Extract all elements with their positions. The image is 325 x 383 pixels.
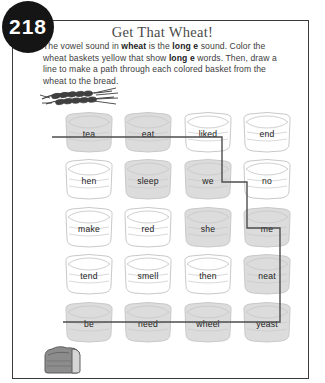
- basket-word: tea: [58, 110, 120, 154]
- basket-word: she: [177, 205, 239, 249]
- basket-end[interactable]: end: [236, 110, 298, 154]
- bread-loaf-icon: [41, 343, 87, 377]
- basket-tea[interactable]: tea: [58, 110, 120, 154]
- basket-word: yeast: [236, 300, 298, 344]
- basket-red[interactable]: red: [117, 205, 179, 249]
- basket-we[interactable]: we: [177, 157, 239, 201]
- basket-word: make: [58, 205, 120, 249]
- basket-word: no: [236, 157, 298, 201]
- basket-liked[interactable]: liked: [177, 110, 239, 154]
- basket-sleep[interactable]: sleep: [117, 157, 179, 201]
- basket-no[interactable]: no: [236, 157, 298, 201]
- basket-word: neat: [236, 252, 298, 296]
- basket-word: red: [117, 205, 179, 249]
- page-number-text: 218: [9, 15, 47, 39]
- basket-word: hen: [58, 157, 120, 201]
- basket-tend[interactable]: tend: [58, 252, 120, 296]
- basket-me[interactable]: me: [236, 205, 298, 249]
- basket-need[interactable]: need: [117, 300, 179, 344]
- basket-then[interactable]: then: [177, 252, 239, 296]
- basket-neat[interactable]: neat: [236, 252, 298, 296]
- basket-word: be: [58, 300, 120, 344]
- basket-she[interactable]: she: [177, 205, 239, 249]
- basket-smell[interactable]: smell: [117, 252, 179, 296]
- basket-word: wheel: [177, 300, 239, 344]
- basket-make[interactable]: make: [58, 205, 120, 249]
- basket-word: tend: [58, 252, 120, 296]
- basket-be[interactable]: be: [58, 300, 120, 344]
- basket-word: eat: [117, 110, 179, 154]
- basket-word: sleep: [117, 157, 179, 201]
- page-number-badge: 218: [2, 1, 54, 53]
- basket-eat[interactable]: eat: [117, 110, 179, 154]
- basket-word: smell: [117, 252, 179, 296]
- basket-word: me: [236, 205, 298, 249]
- worksheet-page: 218 Get That Wheat! The vowel sound in w…: [0, 0, 325, 383]
- basket-word: need: [117, 300, 179, 344]
- basket-hen[interactable]: hen: [58, 157, 120, 201]
- basket-wheel[interactable]: wheel: [177, 300, 239, 344]
- basket-grid: teaeatlikedendhensleepwenomakeredshemete…: [0, 0, 325, 383]
- basket-word: we: [177, 157, 239, 201]
- basket-yeast[interactable]: yeast: [236, 300, 298, 344]
- basket-word: then: [177, 252, 239, 296]
- basket-word: end: [236, 110, 298, 154]
- basket-word: liked: [177, 110, 239, 154]
